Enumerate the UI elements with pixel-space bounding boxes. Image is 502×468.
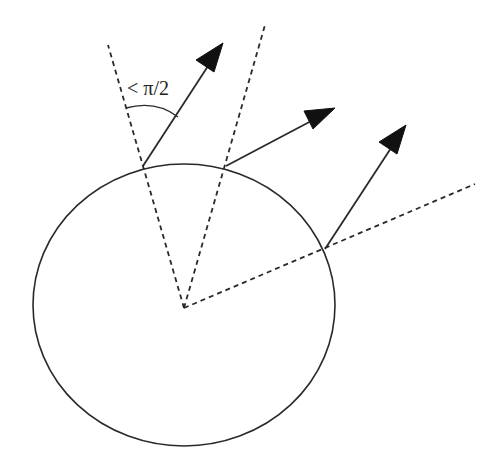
angle-arc	[126, 105, 178, 117]
angle-label: < π/2	[127, 77, 169, 99]
dashed-rays	[108, 25, 475, 308]
arrow-2	[226, 119, 315, 166]
right-cone-boundary-line	[184, 25, 265, 308]
arrowhead-3-icon	[379, 125, 406, 154]
vector-arrows	[143, 43, 406, 249]
diagram-canvas: < π/2	[0, 0, 502, 468]
arrowhead-2-icon	[304, 108, 335, 129]
right-normal-ray-line	[184, 184, 475, 308]
arrowhead-1-icon	[196, 43, 223, 72]
